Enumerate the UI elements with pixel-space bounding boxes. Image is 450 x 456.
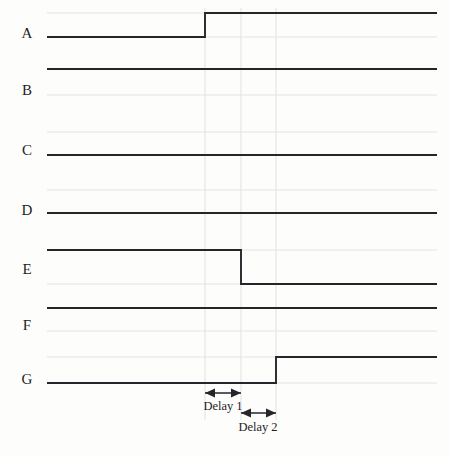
signal-label-c: C (22, 143, 32, 158)
delay-1-label: Delay 1 (203, 400, 242, 413)
delay-1-arrowhead-right (231, 388, 241, 397)
signal-label-a: A (22, 26, 33, 41)
signal-label-b: B (22, 83, 32, 98)
signal-trace-e (47, 250, 437, 284)
timing-diagram-canvas (0, 0, 450, 456)
signal-label-g: G (22, 372, 33, 387)
signal-traces (47, 13, 437, 383)
delay-1-arrowhead-left (205, 388, 215, 397)
delay-2-arrowhead-right (266, 408, 276, 417)
signal-label-e: E (22, 262, 31, 277)
signal-label-d: D (22, 203, 33, 218)
timing-diagram-figure: ABCDEFG Delay 1Delay 2 (0, 0, 450, 456)
delay-2-label: Delay 2 (238, 421, 277, 434)
signal-trace-g (47, 357, 437, 383)
signal-label-f: F (23, 318, 31, 333)
signal-trace-a (47, 13, 437, 37)
